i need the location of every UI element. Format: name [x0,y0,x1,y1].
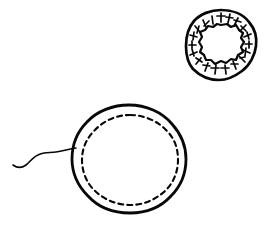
figure-root: Hand-drawn biological line illustration [0,0,271,226]
ring-inner-lumen [199,24,244,64]
figure-canvas [0,0,271,226]
